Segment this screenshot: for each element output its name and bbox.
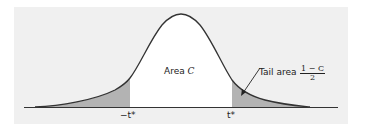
center-area-label: Area C (164, 66, 194, 76)
left-tail-area (35, 78, 130, 107)
left-critical-label: −t* (120, 110, 136, 120)
right-critical-label: t* (227, 110, 235, 120)
tail-area-label: Tail area (259, 67, 296, 77)
tail-arrow (243, 68, 260, 93)
center-area (130, 14, 232, 107)
tail-area-fraction: 1 − C 2 (300, 65, 325, 82)
